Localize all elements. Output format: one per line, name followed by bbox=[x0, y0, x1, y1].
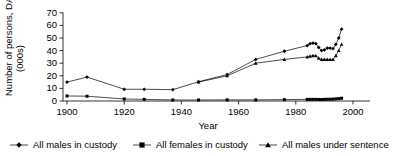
y-tick-label-0: 0 bbox=[52, 95, 57, 106]
series-all-males-under-sentence bbox=[197, 42, 344, 83]
y-axis-title: Number of persons, DAP (000s) bbox=[3, 0, 25, 96]
y-axis-title-line2: (000s) bbox=[14, 45, 25, 72]
y-tick-labels: 0 10 20 30 40 50 60 70 bbox=[46, 7, 57, 106]
diamond-icon bbox=[254, 58, 258, 62]
diamond-icon bbox=[328, 46, 332, 50]
x-tick-label-2000: 2000 bbox=[342, 106, 363, 117]
diamond-icon bbox=[142, 87, 146, 91]
square-icon bbox=[171, 98, 174, 101]
square-icon bbox=[340, 97, 343, 100]
x-tick-marks bbox=[67, 101, 353, 105]
x-tick-label-1900: 1900 bbox=[56, 106, 77, 117]
diamond-icon bbox=[305, 44, 309, 48]
line-chart: Number of persons, DAP (000s) 0 10 20 30… bbox=[0, 0, 393, 156]
chart-legend: All males in custody All females in cust… bbox=[10, 139, 389, 150]
triangle-icon bbox=[337, 49, 341, 52]
diamond-icon bbox=[337, 36, 341, 40]
square-icon bbox=[326, 98, 329, 101]
square-icon bbox=[66, 94, 69, 97]
legend-label-1: All females in custody bbox=[156, 139, 248, 150]
y-tick-label-70: 70 bbox=[46, 7, 57, 18]
diamond-icon bbox=[340, 27, 344, 31]
x-tick-labels: 1900 1920 1940 1960 1980 2000 bbox=[56, 106, 363, 117]
square-icon bbox=[337, 97, 340, 100]
square-icon bbox=[320, 98, 323, 101]
square-icon bbox=[334, 97, 337, 100]
y-tick-label-20: 20 bbox=[46, 70, 57, 81]
square-icon bbox=[283, 98, 286, 101]
diamond-icon bbox=[171, 88, 175, 92]
diamond-icon bbox=[323, 48, 327, 52]
square-icon bbox=[123, 97, 126, 100]
square-icon bbox=[254, 98, 257, 101]
triangle-icon bbox=[334, 54, 338, 57]
diamond-icon bbox=[85, 75, 89, 79]
diamond-icon bbox=[16, 142, 21, 147]
y-tick-label-40: 40 bbox=[46, 45, 57, 56]
square-icon bbox=[309, 98, 312, 101]
x-tick-label-1960: 1960 bbox=[228, 106, 249, 117]
y-tick-label-60: 60 bbox=[46, 19, 57, 30]
square-icon bbox=[306, 98, 309, 101]
square-icon bbox=[86, 95, 89, 98]
legend-item-all-males-in-custody: All males in custody bbox=[10, 139, 117, 150]
series-line-1 bbox=[67, 96, 342, 100]
y-axis-title-line1: Number of persons, DAP bbox=[3, 0, 14, 96]
square-icon bbox=[311, 98, 314, 101]
diamond-icon bbox=[282, 49, 286, 53]
diamond-icon bbox=[311, 41, 315, 45]
square-icon bbox=[143, 98, 146, 101]
triangle-icon bbox=[340, 42, 344, 45]
square-icon bbox=[323, 98, 326, 101]
legend-label-2: All males under sentence bbox=[282, 139, 389, 150]
y-tick-marks bbox=[60, 13, 64, 101]
legend-label-0: All males in custody bbox=[33, 139, 117, 150]
square-icon bbox=[197, 98, 200, 101]
diamond-icon bbox=[334, 42, 338, 46]
diamond-icon bbox=[65, 80, 69, 84]
legend-item-all-females-in-custody: All females in custody bbox=[133, 139, 248, 150]
square-icon bbox=[314, 98, 317, 101]
chart-figure: Number of persons, DAP (000s) 0 10 20 30… bbox=[0, 0, 393, 156]
x-tick-label-1980: 1980 bbox=[285, 106, 306, 117]
square-icon bbox=[317, 98, 320, 101]
x-tick-label-1940: 1940 bbox=[171, 106, 192, 117]
series-layer bbox=[65, 27, 343, 101]
y-tick-label-10: 10 bbox=[46, 82, 57, 93]
y-tick-label-50: 50 bbox=[46, 32, 57, 43]
square-icon bbox=[329, 98, 332, 101]
diamond-icon bbox=[308, 42, 312, 46]
square-icon bbox=[139, 142, 144, 147]
square-icon bbox=[226, 98, 229, 101]
y-tick-label-30: 30 bbox=[46, 57, 57, 68]
diamond-icon bbox=[122, 87, 126, 91]
legend-item-all-males-under-sentence: All males under sentence bbox=[259, 139, 389, 150]
x-tick-label-1920: 1920 bbox=[114, 106, 135, 117]
x-axis-title: Year bbox=[198, 120, 217, 131]
square-icon bbox=[331, 98, 334, 101]
series-all-females-in-custody bbox=[66, 94, 344, 101]
series-all-males-in-custody bbox=[65, 27, 343, 91]
diamond-icon bbox=[331, 47, 335, 51]
